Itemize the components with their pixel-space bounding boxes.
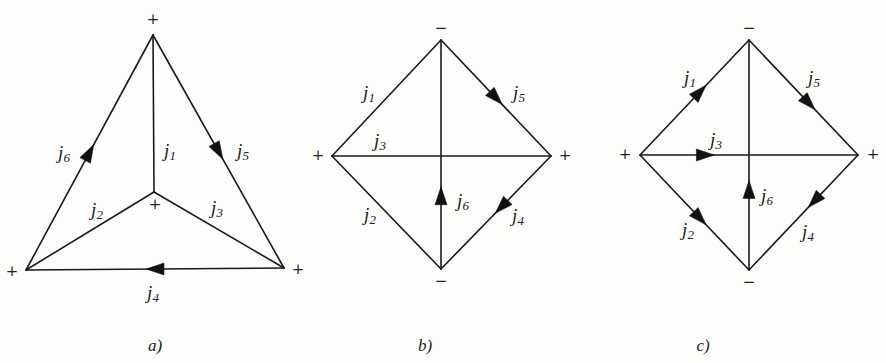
node-polarity-top: −: [743, 19, 756, 37]
arrow-head-icon: [435, 187, 447, 205]
node-polarity-center: +: [149, 195, 162, 213]
edge-j1: [332, 40, 441, 156]
edge-label-j4: j4: [509, 205, 524, 228]
edge-label-j2: j2: [361, 204, 376, 227]
node-polarity-right: +: [867, 145, 880, 163]
edge-label-j5: j5: [805, 67, 820, 90]
figure-caption-c: c): [696, 336, 710, 355]
figure-a-triangle-graph: j1j2j3j4j5j6++++a): [6, 10, 305, 355]
node-polarity-bottom: −: [743, 273, 756, 291]
edge-label-j5: j5: [510, 82, 525, 105]
arrow-head-icon: [209, 141, 223, 160]
node-polarity-left: +: [312, 146, 325, 164]
node-polarity-top: +: [147, 10, 160, 28]
edge-label-j4: j4: [799, 221, 814, 244]
arrow-head-icon: [80, 145, 94, 164]
edge-label-j3: j3: [707, 129, 722, 152]
edge-label-j3: j3: [208, 197, 223, 220]
figure-caption-b: b): [418, 336, 433, 355]
edge-label-j6: j6: [758, 185, 773, 208]
node-polarity-right: +: [559, 146, 572, 164]
node-polarity-left: +: [619, 145, 632, 163]
node-polarity-bottom-right: +: [292, 260, 305, 278]
edge-label-j2: j2: [679, 219, 694, 242]
edge-label-j3: j3: [371, 130, 386, 153]
node-polarity-bottom-left: +: [6, 262, 19, 280]
figure-c-diamond-graph-directed: j1j2j3j4j5j6−++−c): [619, 19, 880, 355]
edge-label-j1: j1: [161, 140, 176, 163]
node-polarity-bottom: −: [435, 272, 448, 290]
edge-label-j1: j1: [360, 82, 375, 105]
edge-j2: [332, 156, 441, 269]
node-polarity-top: −: [435, 19, 448, 37]
edge-j1: [153, 35, 154, 192]
edge-label-j6: j6: [454, 190, 469, 213]
graph-diagrams-canvas: j1j2j3j4j5j6++++a) j1j2j3j4j5j6−++−b) j1…: [0, 0, 886, 363]
edge-label-j2: j2: [88, 199, 103, 222]
arrow-head-icon: [743, 181, 755, 199]
edge-j3: [154, 192, 284, 268]
figure-caption-a: a): [148, 336, 163, 355]
edge-j2: [26, 192, 154, 270]
edge-label-j4: j4: [144, 282, 159, 305]
edge-label-j1: j1: [681, 67, 696, 90]
figure-b-diamond-graph: j1j2j3j4j5j6−++−b): [312, 19, 572, 355]
edge-j4: [749, 155, 858, 270]
edge-label-j6: j6: [55, 142, 70, 165]
edge-label-j5: j5: [234, 140, 249, 163]
arrow-head-icon: [696, 149, 714, 161]
arrow-head-icon: [146, 263, 164, 275]
